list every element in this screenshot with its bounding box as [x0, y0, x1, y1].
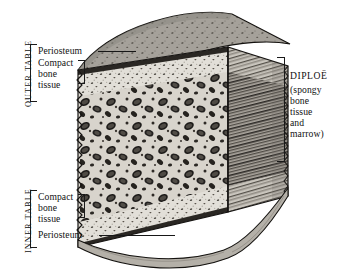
front-face — [70, 40, 238, 255]
diploe-detail-line-2: bone — [290, 95, 309, 107]
compact-bone-outer-line-3: tissue — [38, 79, 60, 91]
compact-bone-inner-line-1: Compact — [38, 191, 73, 203]
outer-table-bracket — [30, 44, 37, 102]
figure-canvas: OUTER TABLE Periosteum Compact bone tiss… — [0, 0, 344, 277]
diploe-bracket — [277, 57, 285, 162]
compact-bone-inner-line-3: tissue — [38, 213, 60, 225]
compact-bone-inner-bracket — [78, 194, 85, 218]
compact-bone-outer-bracket — [78, 60, 85, 84]
periosteum-inner-leader — [99, 235, 175, 236]
diploe-detail-line-1: (spongy — [290, 84, 322, 96]
diploe-detail-line-5: marrow) — [290, 128, 324, 140]
periosteum-outer-leader — [98, 51, 136, 52]
compact-bone-outer-line-1: Compact — [38, 57, 73, 69]
compact-bone-inner-line-2: bone — [38, 202, 57, 214]
inner-table-bracket — [30, 190, 37, 248]
periosteum-inner-label: Periosteum — [38, 229, 82, 241]
diploe-title-label: DIPLOË — [290, 70, 327, 82]
diploe-detail-line-4: and — [290, 117, 304, 129]
diploe-detail-line-3: tissue — [290, 106, 312, 118]
compact-bone-outer-line-2: bone — [38, 68, 57, 80]
periosteum-outer-label: Periosteum — [38, 45, 82, 57]
